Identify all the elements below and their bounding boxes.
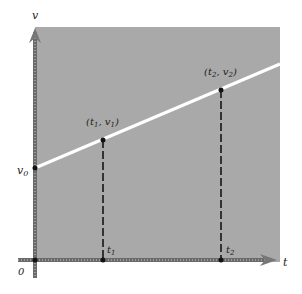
plot-area xyxy=(35,27,280,262)
origin-label: 0 xyxy=(18,266,25,277)
origin-point xyxy=(33,258,38,263)
t-axis-label: t xyxy=(283,256,288,269)
point-1 xyxy=(101,138,106,143)
point-2 xyxy=(219,88,224,93)
v0-point xyxy=(33,166,38,171)
v0-label: v0 xyxy=(17,164,28,178)
velocity-time-diagram: v t 0 v0 (t1, v1) (t2, v2) t1 t2 xyxy=(0,0,302,294)
t2-point xyxy=(219,258,224,263)
v-axis-label: v xyxy=(32,9,39,22)
t1-point xyxy=(101,258,106,263)
